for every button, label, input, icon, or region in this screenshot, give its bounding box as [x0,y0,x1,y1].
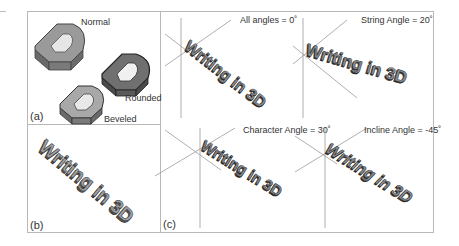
panel-a: Normal Rounded Beveled (a) [28,12,160,124]
label-rounded: Rounded [125,93,162,103]
panel-label-a: (a) [30,110,43,122]
label-normal: Normal [81,17,110,27]
panel-label-b: (b) [30,219,43,231]
axes-subfigure-3: Writing in 3D Writing in 3D [161,124,297,232]
panel-b: Writing in 3D Writing in 3D (b) [28,125,160,233]
caption-string-angle: String Angle = 20˚ [361,15,433,25]
svg-text:Writing in 3D: Writing in 3D [322,140,418,205]
panel-c: Writing in 3D Writing in 3D All angles =… [161,12,433,232]
label-beveled: Beveled [104,114,137,124]
caption-all-angles: All angles = 0˚ [240,15,297,25]
svg-text:Writing in 3D: Writing in 3D [182,37,270,111]
figure-frame: Normal Rounded Beveled (a) Writing in 3D [27,11,434,233]
writing-3d-perspective: Writing in 3D Writing in 3D [34,131,158,227]
axes-subfigure-1: Writing in 3D Writing in 3D [161,12,297,122]
panel-label-c: (c) [163,218,176,230]
corner-tick [0,11,6,12]
axes-subfigure-2: Writing in 3D Writing in 3D [297,12,433,122]
caption-incline-angle: Incline Angle = -45˚ [364,125,441,135]
axes-subfigure-4: Writing in 3D Writing in 3D [297,124,433,232]
svg-text:Writing in 3D: Writing in 3D [35,136,138,227]
svg-text:Writing in 3D: Writing in 3D [198,137,285,200]
